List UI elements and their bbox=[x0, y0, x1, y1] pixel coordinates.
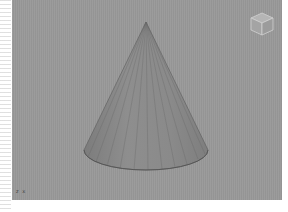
viewcube-icon[interactable] bbox=[248, 10, 276, 38]
cone-model[interactable] bbox=[12, 0, 282, 200]
axis-indicator: z x bbox=[16, 188, 26, 194]
3d-viewport[interactable]: z x bbox=[12, 0, 282, 200]
left-ruler bbox=[0, 0, 11, 212]
